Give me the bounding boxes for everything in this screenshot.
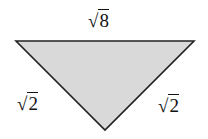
top-side-label: √8: [88, 11, 109, 30]
left-side-label: √2: [17, 94, 38, 113]
right-side-label: √2: [158, 96, 179, 115]
triangle: [16, 41, 194, 130]
